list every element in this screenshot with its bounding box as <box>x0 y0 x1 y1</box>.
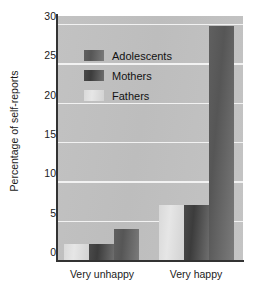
bar-very-happy-mothers <box>184 205 209 260</box>
y-tick-20-label: 20 <box>44 89 56 101</box>
bar-very-unhappy-mothers <box>89 244 114 260</box>
adolescents-swatch-icon <box>84 50 104 61</box>
y-tick-10: 10 <box>44 167 56 179</box>
y-tick-15: 15 <box>44 128 56 140</box>
legend-item-mothers: Mothers <box>84 67 172 84</box>
plot-area: Adolescents Mothers Fathers <box>58 16 243 260</box>
y-tick-15-label: 15 <box>44 128 56 140</box>
y-axis-title-label: Percentage of self-reports <box>8 71 20 192</box>
x-axis-line <box>56 260 244 262</box>
gridline-30 <box>58 24 243 25</box>
fathers-swatch-icon <box>84 90 104 101</box>
y-axis: 30 25 20 15 10 5 0 <box>26 16 56 260</box>
y-tick-30: 30 <box>44 10 56 22</box>
bar-very-happy-adolescents <box>209 26 234 260</box>
y-tick-25: 25 <box>44 49 56 61</box>
x-label-very-happy: Very happy <box>170 268 223 280</box>
bar-very-happy-fathers <box>159 205 184 260</box>
legend-label-adolescents: Adolescents <box>112 50 172 62</box>
y-tick-20: 20 <box>44 89 56 101</box>
legend-label-mothers: Mothers <box>112 70 152 82</box>
mothers-swatch-icon <box>84 70 104 81</box>
x-label-very-unhappy: Very unhappy <box>70 268 134 280</box>
legend-item-adolescents: Adolescents <box>84 47 172 64</box>
bar-very-unhappy-adolescents <box>114 229 139 260</box>
legend-item-fathers: Fathers <box>84 87 172 104</box>
y-axis-title: Percentage of self-reports <box>2 0 26 262</box>
y-tick-10-label: 10 <box>44 167 56 179</box>
y-tick-25-label: 25 <box>44 49 56 61</box>
bar-very-unhappy-fathers <box>64 244 89 260</box>
legend: Adolescents Mothers Fathers <box>84 47 172 107</box>
legend-label-fathers: Fathers <box>112 90 149 102</box>
y-tick-30-label: 30 <box>44 10 56 22</box>
bar-chart: Percentage of self-reports 30 25 20 15 1… <box>0 0 258 293</box>
